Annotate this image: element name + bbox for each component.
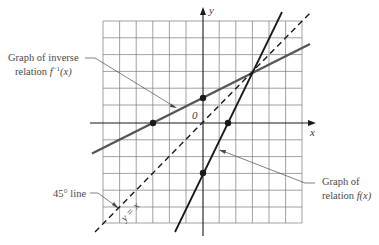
y-axis-arrow-icon bbox=[200, 7, 206, 15]
inverse-leader-arrow-icon bbox=[170, 104, 177, 109]
y-equals-x-label: y = x bbox=[118, 200, 142, 224]
y-axis-label: y bbox=[208, 4, 214, 16]
f-leader-arrow-icon bbox=[219, 150, 226, 154]
point-f-y-intercept bbox=[200, 170, 206, 176]
f-label-line2: relation f(x) bbox=[322, 190, 372, 202]
inverse-leader-line bbox=[85, 58, 175, 107]
point-inverse-x-intercept bbox=[150, 120, 156, 126]
line45-label: 45° line bbox=[53, 188, 86, 199]
line45-leader-arrow-icon bbox=[112, 202, 119, 209]
point-inverse-y-intercept bbox=[200, 95, 206, 101]
inverse-relation-diagram: x y 0 Graph of inverse relation f−1(x) 4… bbox=[0, 0, 379, 245]
x-axis-label: x bbox=[309, 126, 315, 138]
f-leader-line bbox=[220, 150, 315, 183]
inverse-label-line2: relation f−1(x) bbox=[15, 65, 72, 78]
inverse-label-line1: Graph of inverse bbox=[8, 52, 79, 63]
f-label-line1: Graph of bbox=[322, 176, 360, 187]
point-f-x-intercept bbox=[225, 120, 231, 126]
origin-label: 0 bbox=[192, 109, 198, 121]
